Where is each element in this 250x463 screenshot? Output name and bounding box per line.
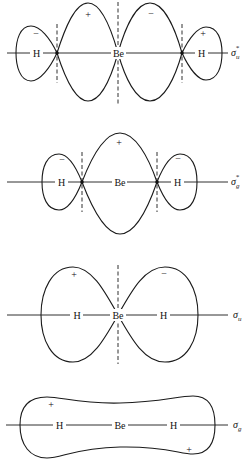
phase-sign: − <box>161 268 167 279</box>
phase-sign: − <box>148 8 154 19</box>
atom-label: H <box>58 177 65 188</box>
phase-sign: + <box>71 269 77 280</box>
phase-sign: + <box>200 28 206 39</box>
atom-label: Be <box>112 310 124 321</box>
panel-sigma-g: H Be H + + σg <box>6 396 242 458</box>
atom-label: H <box>198 48 205 59</box>
phase-sign: − <box>175 153 181 164</box>
panel-sigma-g-star: H Be H − + − σg* <box>7 133 240 234</box>
phase-sign: + <box>186 444 192 455</box>
atom-label: H <box>33 48 40 59</box>
atom-label: Be <box>113 48 125 59</box>
phase-sign: + <box>48 399 54 410</box>
orbital-label: σg <box>233 419 242 433</box>
panel-sigma-u-star: H Be H − + − + σu* <box>7 2 240 106</box>
atom-label: H <box>174 177 181 188</box>
panel-sigma-u: H Be H + − σu <box>7 265 242 364</box>
orbital-label: σg* <box>231 173 240 190</box>
beh2-orbital-diagram: H Be H − + − + σu* H Be H − + − σg* <box>0 0 250 463</box>
orbital-label: σu <box>233 309 242 323</box>
phase-sign: − <box>33 28 39 39</box>
atom-label: H <box>170 420 177 431</box>
node-dot <box>180 51 184 55</box>
atom-label: Be <box>114 177 126 188</box>
node-dot <box>155 180 159 184</box>
atom-label: H <box>160 310 167 321</box>
node-dot <box>55 51 59 55</box>
atom-label: H <box>56 420 63 431</box>
phase-sign: + <box>85 9 91 20</box>
phase-sign: − <box>59 154 65 165</box>
atom-label: Be <box>114 420 126 431</box>
node-dot <box>80 180 84 184</box>
phase-sign: + <box>116 137 122 148</box>
orbital-label: σu* <box>231 44 240 61</box>
atom-label: H <box>73 310 80 321</box>
